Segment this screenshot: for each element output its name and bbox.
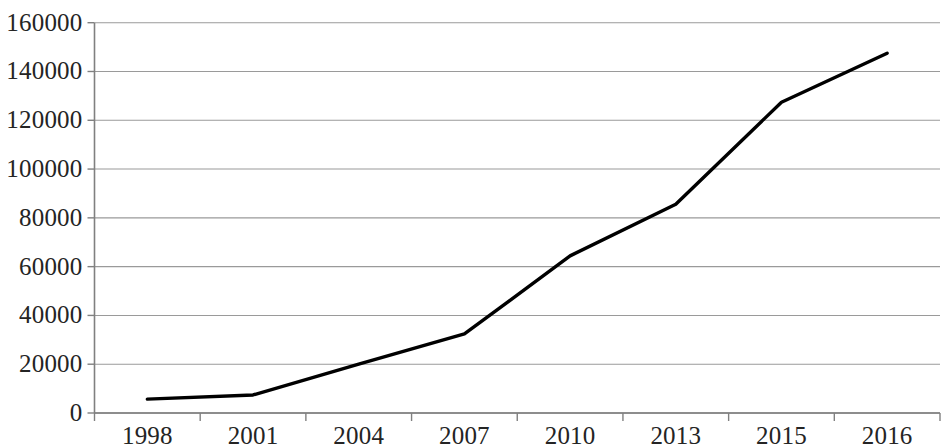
x-axis-tick-label: 2004: [306, 423, 412, 446]
y-axis-tick-label: 100000: [6, 156, 82, 181]
x-axis-tick-label: 2010: [517, 423, 623, 446]
gridlines: [95, 23, 941, 413]
y-axis-ticks: [88, 23, 95, 413]
x-axis-tick-label: 2001: [200, 423, 306, 446]
x-axis-ticks: [95, 413, 941, 421]
y-axis-tick-label: 0: [70, 400, 83, 425]
x-axis-tick-label: 2015: [729, 423, 835, 446]
x-axis-tick-label: 2016: [834, 423, 940, 446]
y-axis-tick-label: 60000: [19, 254, 83, 279]
data-series-line: [147, 53, 887, 399]
y-axis-tick-label: 140000: [6, 58, 82, 83]
x-axis-tick-label: 2013: [623, 423, 729, 446]
chart-canvas: [0, 0, 943, 446]
x-axis-tick-label: 2007: [412, 423, 518, 446]
y-axis-tick-label: 160000: [6, 10, 82, 35]
y-axis-tick-label: 40000: [19, 302, 83, 327]
x-axis-tick-label: 1998: [95, 423, 201, 446]
y-axis-tick-label: 120000: [6, 107, 82, 132]
y-axis-tick-label: 80000: [19, 205, 83, 230]
y-axis-tick-label: 20000: [19, 351, 83, 376]
line-chart: 0200004000060000800001000001200001400001…: [0, 0, 943, 446]
